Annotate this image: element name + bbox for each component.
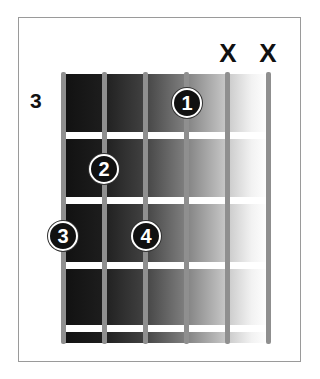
finger-dot-1: 1 xyxy=(172,88,202,118)
fret-position-label: 3 xyxy=(30,89,42,113)
fret-1 xyxy=(66,132,266,139)
muted-string-6-marker: X xyxy=(256,40,280,66)
fretboard xyxy=(63,74,268,343)
muted-string-5-marker: X xyxy=(216,40,240,66)
string-5 xyxy=(225,72,230,344)
finger-dot-4: 4 xyxy=(131,221,161,251)
string-2 xyxy=(102,72,107,344)
fret-2 xyxy=(66,197,266,204)
string-6 xyxy=(266,72,271,344)
fret-4 xyxy=(66,325,266,332)
finger-dot-3: 3 xyxy=(48,221,78,251)
fret-3 xyxy=(66,262,266,269)
finger-dot-2: 2 xyxy=(89,154,119,184)
string-1 xyxy=(61,72,66,344)
string-3 xyxy=(143,72,148,344)
